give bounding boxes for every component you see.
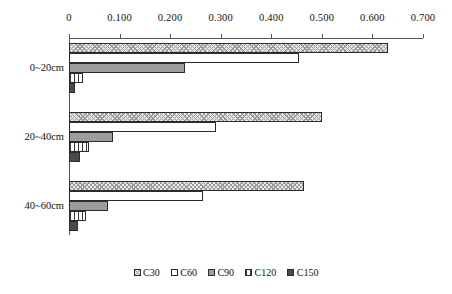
x-axis-line xyxy=(69,38,423,39)
bar-c90-4060 xyxy=(69,201,108,211)
legend-item-c60[interactable]: C60 xyxy=(171,267,197,278)
bar-c60-4060 xyxy=(69,191,203,201)
x-axis-tick-labels: 00.1000.2000.3000.4000.5000.6000.700 xyxy=(0,12,452,28)
legend-label: C150 xyxy=(297,267,319,278)
legend-label: C30 xyxy=(143,267,160,278)
y-axis-category-label: 0~20cm xyxy=(30,62,64,74)
legend-item-c30[interactable]: C30 xyxy=(134,267,160,278)
bar-chart: 00.1000.2000.3000.4000.5000.6000.700 0~2… xyxy=(0,0,452,294)
legend-label: C60 xyxy=(180,267,197,278)
bar-c60-020 xyxy=(69,53,299,63)
legend-swatch-icon xyxy=(287,269,294,276)
legend-swatch-icon xyxy=(208,269,215,276)
legend-item-c90[interactable]: C90 xyxy=(208,267,234,278)
y-axis-category-label-wrap: 0~20cm xyxy=(0,62,64,74)
legend-item-c150[interactable]: C150 xyxy=(287,267,318,278)
bar-c90-020 xyxy=(69,63,185,73)
x-axis-tick xyxy=(372,34,373,38)
legend-label: C120 xyxy=(255,267,277,278)
bar-c150-4060 xyxy=(69,221,78,231)
x-axis-tick-label: 0.500 xyxy=(310,12,335,24)
bar-c120-020 xyxy=(69,73,83,83)
bar-c30-4060 xyxy=(69,181,304,191)
x-axis-tick xyxy=(423,34,424,38)
x-axis-tick xyxy=(170,34,171,38)
x-axis-tick-label: 0.300 xyxy=(208,12,233,24)
bar-c60-2040 xyxy=(69,122,216,132)
legend-swatch-icon xyxy=(245,269,252,276)
y-axis-category-label: 40~60cm xyxy=(24,200,64,212)
bar-c90-2040 xyxy=(69,132,113,142)
x-axis-tick xyxy=(221,34,222,38)
bar-c30-2040 xyxy=(69,112,322,122)
bar-c120-2040 xyxy=(69,142,89,152)
x-axis-tick xyxy=(120,34,121,38)
legend-swatch-icon xyxy=(134,269,141,276)
x-axis-tick xyxy=(322,34,323,38)
legend-swatch-icon xyxy=(171,269,178,276)
legend-item-c120[interactable]: C120 xyxy=(245,267,276,278)
x-axis-tick-label: 0.400 xyxy=(259,12,284,24)
x-axis-tick-label: 0.600 xyxy=(360,12,385,24)
bar-c120-4060 xyxy=(69,211,86,221)
x-axis-tick-label: 0.200 xyxy=(158,12,183,24)
bar-c150-020 xyxy=(69,83,75,93)
y-axis-category-label: 20~40cm xyxy=(24,131,64,143)
bar-c30-020 xyxy=(69,43,388,53)
x-axis-tick-label: 0.700 xyxy=(411,12,436,24)
x-axis-tick xyxy=(271,34,272,38)
x-axis-tick-label: 0.100 xyxy=(107,12,132,24)
y-axis-category-label-wrap: 40~60cm xyxy=(0,200,64,212)
legend: C30C60C90C120C150 xyxy=(0,264,452,280)
bar-c150-2040 xyxy=(69,152,80,162)
legend-label: C90 xyxy=(217,267,234,278)
y-axis-category-label-wrap: 20~40cm xyxy=(0,131,64,143)
x-axis-tick-label: 0 xyxy=(66,12,71,24)
